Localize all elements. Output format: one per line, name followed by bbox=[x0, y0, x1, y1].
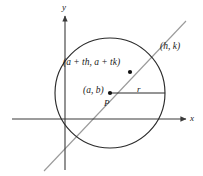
figure-container: y x (h, k) (a + th, a + tk) (a, b) P r bbox=[0, 0, 203, 176]
parametric-point-dot bbox=[128, 70, 132, 74]
parametric-point-label: (a + th, a + tk) bbox=[63, 58, 120, 68]
x-axis-label: x bbox=[190, 114, 194, 123]
center-point-dot bbox=[108, 91, 112, 95]
center-coords-label: (a, b) bbox=[83, 86, 104, 96]
center-point-label: P bbox=[104, 99, 110, 108]
direction-vector-label: (h, k) bbox=[160, 42, 180, 52]
y-axis-label: y bbox=[62, 3, 66, 12]
radius-label: r bbox=[137, 85, 141, 94]
